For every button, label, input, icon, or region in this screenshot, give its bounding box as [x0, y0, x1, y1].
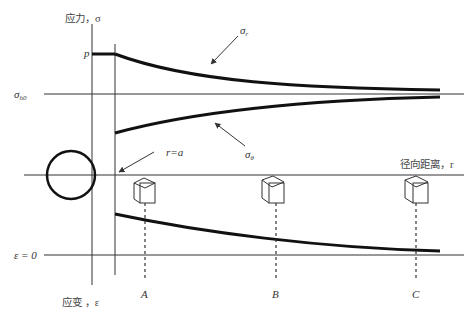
- radial-axis-label: 径向距离，r: [400, 160, 454, 171]
- cube-icon-a: [134, 178, 155, 203]
- strain-curve: [115, 214, 440, 251]
- cube-icon-c: [405, 176, 428, 203]
- sigma-theta-arrow: [215, 123, 245, 146]
- sigma-h0-label: σh0: [14, 89, 26, 102]
- sigma-theta-label: σθ: [245, 149, 254, 162]
- point-label-a: A: [141, 289, 148, 300]
- r-equals-a-arrow: [119, 152, 154, 172]
- point-label-c: C: [412, 289, 419, 300]
- epsilon-zero-label: ε = 0: [14, 250, 37, 261]
- stress-axis-label: 应力，σ: [65, 14, 101, 25]
- r-equals-a-label: r=a: [166, 147, 183, 158]
- point-label-b: B: [272, 289, 279, 300]
- sigma-r-arrow: [211, 36, 238, 64]
- cube-icon-b: [262, 176, 284, 203]
- sigma-r-label: σr: [240, 25, 248, 38]
- sigma-r-curve: [115, 54, 440, 90]
- strain-axis-label: 应变 ，ε: [62, 298, 99, 309]
- sigma-theta-curve: [115, 97, 440, 133]
- p-label: p: [84, 48, 90, 59]
